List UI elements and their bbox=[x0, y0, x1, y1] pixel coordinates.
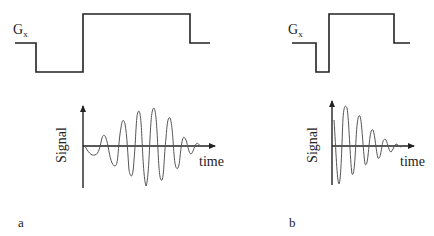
gradient-label-a: Gx bbox=[13, 23, 28, 39]
panel-label-a: a bbox=[18, 216, 24, 229]
gradient-waveform-a bbox=[15, 14, 210, 72]
signal-axis-label-b: Signal bbox=[305, 127, 321, 163]
time-axis-label-b: time bbox=[400, 155, 425, 169]
signal-axis-label-a: Signal bbox=[54, 127, 70, 163]
time-axis-label-a: time bbox=[199, 155, 224, 169]
panel-label-b: b bbox=[289, 216, 296, 229]
gradient-label-b: Gx bbox=[288, 23, 303, 39]
diagram-canvas bbox=[0, 0, 434, 236]
echo-signal-b bbox=[334, 106, 401, 184]
gradient-waveform-b bbox=[292, 14, 410, 72]
echo-signal-a bbox=[85, 108, 201, 186]
